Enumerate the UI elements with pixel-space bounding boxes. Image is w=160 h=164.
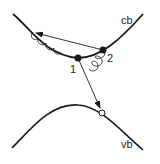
valence-band-label: vb <box>121 138 133 150</box>
point-2-label: 2 <box>107 52 113 64</box>
recombination-arrow <box>78 58 100 108</box>
band-diagram: cb vb 1 2 <box>0 0 160 164</box>
conduction-band-label: cb <box>121 14 133 26</box>
hole-marker <box>99 110 105 116</box>
point-2-marker <box>100 47 107 54</box>
point-1-label: 1 <box>70 63 76 75</box>
point-1-marker <box>75 55 82 62</box>
